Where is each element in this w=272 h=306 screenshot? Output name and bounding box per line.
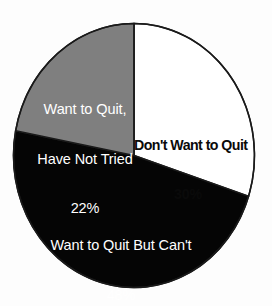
pie-chart-graphic — [0, 0, 272, 306]
pie-chart: Want to Quit, Have Not Tried 22% Don't W… — [0, 0, 272, 306]
